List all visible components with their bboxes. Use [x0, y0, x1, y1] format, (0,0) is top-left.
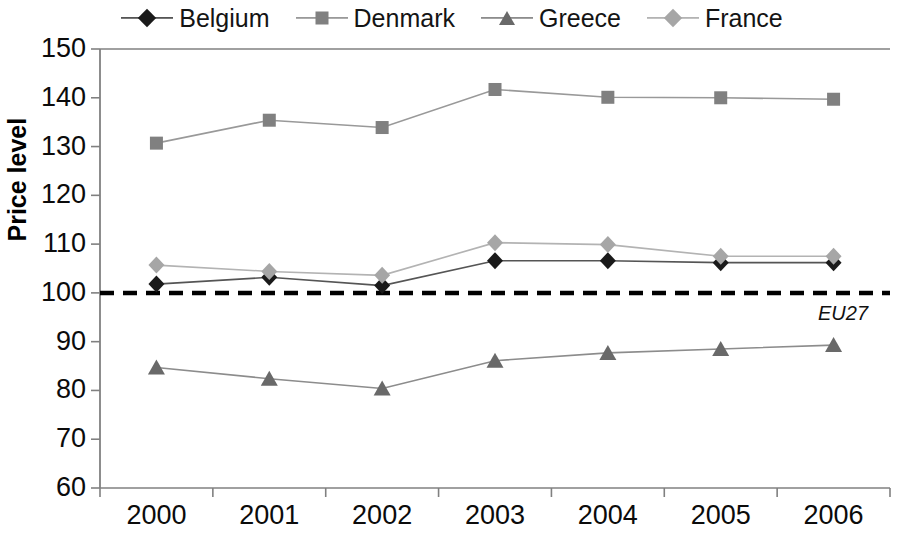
x-axis-tick-label: 2001 [214, 501, 324, 529]
data-point-marker [148, 360, 165, 375]
chart-legend: Belgium Denmark Greece France [0, 0, 904, 36]
data-point-marker [487, 234, 503, 251]
legend-swatch-belgium [121, 5, 173, 31]
legend-label-france: France [699, 5, 783, 31]
chart-canvas [0, 36, 904, 539]
data-point-marker [600, 252, 616, 269]
legend-label-denmark: Denmark [348, 5, 455, 31]
legend-item-greece[interactable]: Greece [481, 5, 621, 31]
data-point-marker [148, 257, 164, 274]
data-point-marker [148, 276, 164, 293]
legend-item-france[interactable]: France [647, 5, 783, 31]
data-point-marker [827, 93, 840, 106]
legend-item-denmark[interactable]: Denmark [296, 5, 455, 31]
legend-swatch-denmark [296, 5, 348, 31]
square-marker-icon [315, 12, 328, 25]
chart-container: Belgium Denmark Greece France Price leve… [0, 0, 904, 539]
data-point-marker [150, 137, 163, 150]
x-axis-tick-label: 2002 [327, 501, 437, 529]
x-axis-tick-label: 2004 [553, 501, 663, 529]
diamond-marker-icon [138, 9, 156, 27]
legend-swatch-france [647, 5, 699, 31]
legend-item-belgium[interactable]: Belgium [121, 5, 269, 31]
data-point-marker [601, 91, 614, 104]
data-point-marker [714, 91, 727, 104]
data-point-marker [263, 114, 276, 127]
reference-line-label: EU27 [818, 302, 868, 325]
x-axis-tick-label: 2006 [779, 501, 889, 529]
data-point-marker [487, 252, 503, 269]
triangle-marker-icon [499, 11, 515, 25]
diamond-marker-icon [664, 9, 682, 27]
data-point-marker [374, 267, 390, 284]
x-axis-tick-label: 2005 [666, 501, 776, 529]
data-point-marker [376, 121, 389, 134]
data-point-marker [600, 236, 616, 253]
x-axis-tick-label: 2000 [101, 501, 211, 529]
legend-label-belgium: Belgium [173, 5, 269, 31]
series-line [156, 89, 833, 143]
legend-label-greece: Greece [533, 5, 621, 31]
x-axis-tick-label: 2003 [440, 501, 550, 529]
plot-area: Price level 60708090100110120130140150 2… [0, 36, 904, 539]
legend-swatch-greece [481, 5, 533, 31]
data-point-marker [489, 83, 502, 96]
